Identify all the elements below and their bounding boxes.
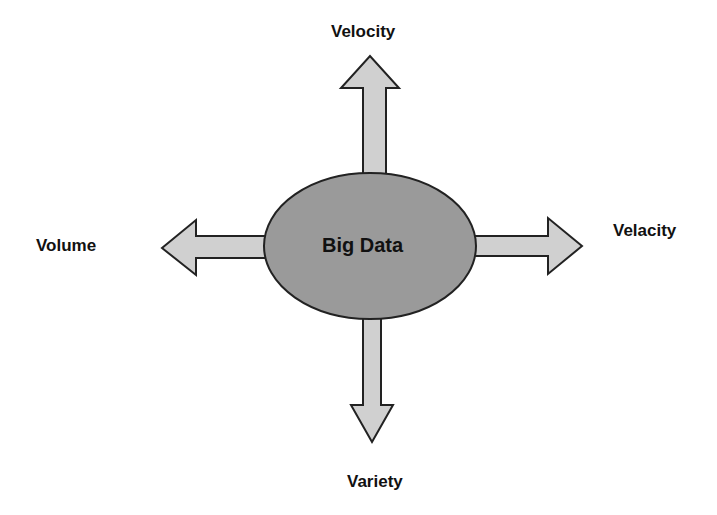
arrow-up — [341, 56, 399, 178]
label-right: Velacity — [613, 221, 676, 241]
label-left: Volume — [36, 236, 96, 256]
center-label: Big Data — [322, 234, 403, 257]
arrow-left — [162, 220, 270, 275]
label-bottom: Variety — [347, 472, 403, 492]
label-top: Velocity — [331, 22, 395, 42]
arrow-down — [351, 310, 393, 442]
big-data-diagram — [0, 0, 717, 515]
arrow-right — [472, 218, 582, 274]
